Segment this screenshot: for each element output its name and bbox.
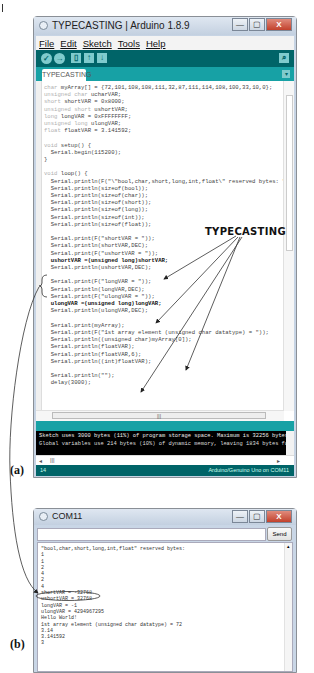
code-line[interactable]: unsigned long ulongVAR; — [44, 120, 282, 127]
code-line[interactable]: unsigned short ushortVAR; — [44, 106, 282, 113]
code-text: Serial.println(ulongVAR,DEC); — [44, 307, 148, 314]
code-line[interactable]: Serial.begin(115200); — [44, 149, 282, 156]
code-line[interactable]: Serial.print(F("ushortVAR = ")); — [44, 250, 282, 257]
code-line[interactable]: Serial.println(sizeof(char)); — [44, 192, 282, 199]
menu-sketch[interactable]: Sketch — [83, 38, 112, 49]
code-line[interactable] — [44, 365, 282, 372]
code-text — [44, 315, 47, 322]
maximize-button[interactable]: ▢ — [249, 510, 265, 523]
menu-tools[interactable]: Tools — [118, 38, 140, 49]
serial-output: ▴ "bool,char,short,long,int,float" reser… — [37, 542, 293, 672]
code-line[interactable]: delay(3000); — [44, 379, 282, 386]
console-vertical-scrollbar[interactable] — [286, 431, 294, 455]
code-line[interactable]: Serial.println(floatVAR,6); — [44, 351, 282, 358]
code-line[interactable]: float floatVAR = 3.141592; — [44, 127, 282, 134]
code-text: Serial.println(sizeof(float)); — [44, 221, 151, 228]
maximize-button[interactable]: ▢ — [249, 18, 265, 31]
code-text — [44, 134, 47, 141]
open-sketch-icon[interactable]: ↑ — [84, 53, 94, 63]
editor-console-divider[interactable] — [36, 421, 294, 431]
code-line[interactable] — [44, 163, 282, 170]
editor-horizontal-scrollbar[interactable]: ||| — [36, 410, 284, 421]
scroll-right-icon[interactable]: ▸ — [277, 457, 280, 464]
code-line[interactable] — [44, 271, 282, 278]
code-line[interactable]: Serial.print(F("1st array element (unsig… — [44, 329, 282, 336]
code-text: myArray[] = {72,101,108,108,111,32,87,11… — [61, 84, 272, 91]
code-text: Serial.print(F("longVAR = ")); — [44, 278, 151, 285]
code-text: Serial.println(sizeof(long)); — [44, 206, 148, 213]
code-keyword: unsigned char — [44, 91, 91, 98]
code-text: longVAR = 0xFFFFFFFF; — [61, 113, 132, 120]
upload-icon[interactable]: → — [54, 53, 65, 64]
line-number: 14 — [40, 465, 46, 476]
code-line[interactable]: } — [44, 156, 282, 163]
code-line[interactable]: char myArray[] = {72,101,108,108,111,32,… — [44, 84, 282, 91]
code-text: Serial.println(F("\"bool,char,short,long… — [44, 178, 294, 185]
tab-typecasting[interactable]: TYPECASTING — [42, 69, 86, 81]
serial-output-scrollbar[interactable]: ▴ — [284, 543, 292, 671]
serial-title-bar: COM11 — ▢ X — [34, 509, 296, 525]
code-line[interactable]: Serial.println((int)floatVAR); — [44, 358, 282, 365]
code-line[interactable]: Serial.println(shortVAR,DEC); — [44, 242, 282, 249]
tab-menu-icon[interactable]: ▾ — [282, 70, 290, 78]
code-line[interactable]: Serial.println(sizeof(int)); — [44, 214, 282, 221]
code-text — [44, 271, 47, 278]
code-editor[interactable]: char myArray[] = {72,101,108,108,111,32,… — [36, 81, 294, 421]
code-line[interactable] — [44, 134, 282, 141]
code-text: setup() { — [61, 142, 91, 149]
code-line[interactable]: Serial.println(longVAR,DEC); — [44, 286, 282, 293]
new-sketch-icon[interactable]: ▯ — [71, 53, 81, 63]
code-line[interactable]: Serial.println(floatVAR); — [44, 343, 282, 350]
minimize-button[interactable]: — — [232, 510, 248, 523]
menu-file[interactable]: File — [39, 38, 54, 49]
console-hscroll-thumb[interactable]: ||| — [50, 457, 55, 463]
code-line[interactable]: void setup() { — [44, 142, 282, 149]
serial-input-field[interactable] — [37, 528, 266, 541]
verify-icon[interactable]: ✓ — [41, 53, 52, 64]
editor-vertical-scrollbar[interactable] — [283, 81, 294, 411]
code-text: ushortVAR =(unsigned long)shortVAR; — [44, 257, 168, 264]
serial-monitor-icon[interactable]: ⌕ — [279, 53, 289, 63]
code-line[interactable]: ulongVAR =(unsigned long)longVAR; — [44, 300, 282, 307]
save-sketch-icon[interactable]: ↓ — [97, 53, 107, 63]
code-line[interactable]: Serial.println(F("\"bool,char,short,long… — [44, 178, 282, 185]
editor-vertical-scroll-thumb[interactable] — [286, 95, 293, 251]
code-line[interactable]: Serial.print(F("ulongVAR = ")); — [44, 293, 282, 300]
editor-horizontal-scroll-thumb[interactable]: ||| — [52, 412, 266, 419]
code-line[interactable] — [44, 315, 282, 322]
code-text: Serial.println((unsigned char)myArray[0]… — [44, 336, 192, 343]
code-text: Serial.println(ushortVAR,DEC); — [44, 264, 151, 271]
close-button[interactable]: X — [266, 510, 292, 523]
code-text — [44, 228, 47, 235]
code-line[interactable]: Serial.println(sizeof(bool)); — [44, 185, 282, 192]
code-text: Serial.println(sizeof(char)); — [44, 192, 148, 199]
code-text: shortVAR = 0x8000; — [64, 98, 124, 105]
code-line[interactable]: unsigned char ucharVAR; — [44, 91, 282, 98]
code-line[interactable]: Serial.println(sizeof(short)); — [44, 199, 282, 206]
code-text: Serial.print(F("1st array element (unsig… — [44, 329, 269, 336]
code-keyword: float — [44, 127, 64, 134]
code-line[interactable]: void loop() { — [44, 170, 282, 177]
code-line[interactable]: Serial.print(F("longVAR = ")); — [44, 278, 282, 285]
code-line[interactable]: ushortVAR =(unsigned long)shortVAR; — [44, 257, 282, 264]
code-line[interactable]: Serial.println(ulongVAR,DEC); — [44, 307, 282, 314]
menu-help[interactable]: Help — [146, 38, 166, 49]
code-line[interactable]: Serial.println(sizeof(long)); — [44, 206, 282, 213]
code-line[interactable]: Serial.println(ushortVAR,DEC); — [44, 264, 282, 271]
code-line[interactable]: Serial.println(""); — [44, 372, 282, 379]
code-line[interactable]: Serial.print(myArray); — [44, 322, 282, 329]
scroll-left-icon[interactable]: ◂ — [39, 457, 42, 464]
close-button[interactable]: X — [266, 18, 292, 31]
crop-mark — [2, 4, 3, 12]
typecasting-annotation: TYPECASTING — [205, 226, 286, 237]
code-line[interactable]: short shortVAR = 0x8000; — [44, 98, 282, 105]
code-text: Serial.println(""); — [44, 372, 115, 379]
code-line[interactable]: long longVAR = 0xFFFFFFFF; — [44, 113, 282, 120]
minimize-button[interactable]: — — [232, 18, 248, 31]
send-button[interactable]: Send — [267, 527, 292, 541]
code-text: } — [44, 156, 47, 163]
code-line[interactable]: Serial.println((unsigned char)myArray[0]… — [44, 336, 282, 343]
code-text: Serial.println(shortVAR,DEC); — [44, 242, 148, 249]
board-port-status: Arduino/Genuino Uno on COM11 — [208, 465, 289, 476]
menu-edit[interactable]: Edit — [60, 38, 76, 49]
